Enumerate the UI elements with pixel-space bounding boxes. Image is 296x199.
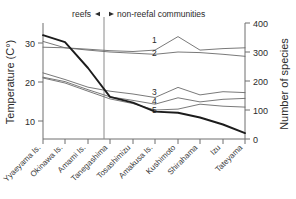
figure-root: 30 20 10 Temperature (C°) 400 300 200 10… (0, 0, 296, 199)
x-label-0: Yyaeyama Is. (2, 143, 43, 184)
left-arrow-icon (95, 12, 100, 16)
right-tick-label-400: 400 (253, 19, 268, 29)
right-tick-label-200: 200 (253, 77, 268, 87)
x-label-8: Izu (209, 143, 223, 157)
left-tick-label-30: 30 (25, 39, 35, 49)
right-arrow-icon (109, 12, 114, 16)
series-line-1 (43, 37, 245, 52)
series-line-4 (43, 77, 245, 104)
series-label-5: 5 (152, 105, 157, 115)
series-line-5 (43, 78, 245, 110)
right-axis-title: Number of species (278, 38, 290, 130)
series-label-1: 1 (152, 35, 157, 45)
series-line-3 (43, 73, 245, 98)
right-tick-label-0: 0 (253, 135, 258, 145)
annotation-reefs-label: reefs (72, 9, 91, 19)
right-tick-label-300: 300 (253, 48, 268, 58)
left-tick-label-20: 20 (25, 78, 35, 88)
line-chart: 30 20 10 Temperature (C°) 400 300 200 10… (0, 0, 296, 199)
chart-svg: 30 20 10 Temperature (C°) 400 300 200 10… (0, 0, 296, 199)
right-tick-label-100: 100 (253, 106, 268, 116)
left-tick-label-10: 10 (25, 117, 35, 127)
left-axis-title: Temperature (C°) (4, 40, 16, 124)
annotation-nonreefal-label: non-reefal communities (117, 9, 205, 19)
x-axis-labels: Yyaeyama Is. Okinawa Is. Amami Is. Taneg… (2, 143, 245, 184)
series-label-2: 2 (152, 48, 157, 58)
